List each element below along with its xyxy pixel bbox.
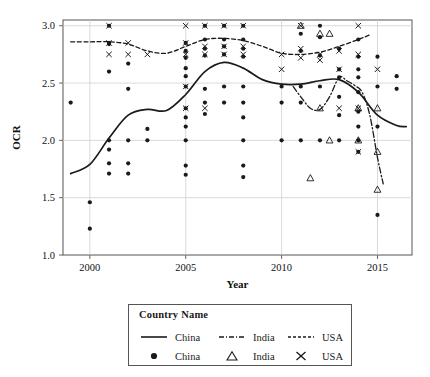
- data-point-china: [222, 100, 226, 104]
- legend-entry-line-india[interactable]: India: [215, 327, 287, 347]
- data-point-china: [375, 84, 379, 88]
- data-point-china: [241, 138, 245, 142]
- data-point-china: [126, 161, 130, 165]
- legend-entry-marker-china[interactable]: China: [137, 346, 215, 366]
- legend-area: Country Name China India: [0, 298, 430, 377]
- y-axis-title: OCR: [10, 124, 22, 150]
- data-point-china: [222, 84, 226, 88]
- dash-dot-line-key: [215, 332, 249, 342]
- data-point-china: [356, 125, 360, 129]
- data-point-china: [184, 74, 188, 78]
- data-point-china: [280, 138, 284, 142]
- data-point-china: [203, 100, 207, 104]
- data-point-china: [299, 138, 303, 142]
- data-point-china: [241, 115, 245, 119]
- data-point-china: [107, 69, 111, 73]
- data-point-china: [184, 115, 188, 119]
- data-point-china: [107, 147, 111, 151]
- x-tick-label: 2015: [367, 262, 388, 273]
- data-point-china: [318, 138, 322, 142]
- legend-marker-row: China India USA: [129, 346, 353, 366]
- x-tick-label: 2010: [271, 262, 292, 273]
- data-point-china: [395, 74, 399, 78]
- data-point-china: [69, 100, 73, 104]
- chart-page: 1.01.52.02.53.02000200520102015YearOCR C…: [0, 0, 430, 377]
- cross-x-key: [284, 350, 318, 362]
- legend-title: Country Name: [139, 309, 208, 320]
- data-point-china: [241, 100, 245, 104]
- data-point-china: [184, 163, 188, 167]
- data-point-china: [184, 125, 188, 129]
- data-point-china: [88, 200, 92, 204]
- solid-line-key: [137, 332, 171, 342]
- data-point-china: [395, 87, 399, 91]
- data-point-china: [126, 172, 130, 176]
- data-point-china: [375, 125, 379, 129]
- legend-label-marker-china: China: [171, 351, 200, 362]
- x-axis-title: Year: [227, 278, 249, 290]
- x-tick-label: 2005: [175, 262, 196, 273]
- data-point-china: [356, 75, 360, 79]
- x-tick-label: 2000: [79, 262, 100, 273]
- filled-circle-key: [137, 350, 171, 362]
- y-tick-label: 2.0: [42, 135, 55, 146]
- y-tick-label: 1.5: [42, 192, 55, 203]
- legend-box: Country Name China India: [128, 304, 352, 366]
- data-point-china: [375, 213, 379, 217]
- plot-canvas: 1.01.52.02.53.02000200520102015YearOCR: [0, 0, 430, 300]
- data-point-china: [337, 95, 341, 99]
- legend-label-line-usa: USA: [318, 332, 343, 343]
- data-point-china: [337, 113, 341, 117]
- dashed-line-key: [284, 332, 318, 342]
- data-point-china: [184, 138, 188, 142]
- data-point-china: [107, 172, 111, 176]
- scatter-plot-figure: 1.01.52.02.53.02000200520102015YearOCR: [0, 0, 430, 300]
- data-point-china: [88, 227, 92, 231]
- data-point-china: [356, 67, 360, 71]
- data-point-china: [280, 100, 284, 104]
- legend-label-marker-india: India: [249, 351, 275, 362]
- data-point-china: [299, 32, 303, 36]
- legend-entry-marker-usa[interactable]: USA: [284, 346, 354, 366]
- data-point-china: [318, 24, 322, 28]
- data-point-china: [299, 100, 303, 104]
- data-point-china: [337, 138, 341, 142]
- data-point-china: [203, 112, 207, 116]
- data-point-china: [145, 127, 149, 131]
- data-point-china: [375, 55, 379, 59]
- legend-label-marker-usa: USA: [318, 351, 343, 362]
- data-point-china: [126, 87, 130, 91]
- data-point-china: [126, 138, 130, 142]
- data-point-china: [184, 173, 188, 177]
- y-tick-label: 1.0: [42, 250, 55, 261]
- y-tick-label: 3.0: [42, 20, 55, 31]
- open-triangle-key: [215, 350, 249, 362]
- y-tick-label: 2.5: [42, 78, 55, 89]
- data-point-china: [145, 138, 149, 142]
- data-point-china: [184, 66, 188, 70]
- legend-label-line-india: India: [249, 332, 275, 343]
- data-point-china: [318, 35, 322, 39]
- data-point-china: [203, 87, 207, 91]
- legend-entry-line-usa[interactable]: USA: [284, 327, 354, 347]
- legend-label-line-china: China: [171, 332, 200, 343]
- data-point-china: [241, 163, 245, 167]
- data-point-china: [107, 161, 111, 165]
- data-point-china: [241, 175, 245, 179]
- data-point-china: [241, 84, 245, 88]
- data-point-china: [318, 84, 322, 88]
- legend-entry-line-china[interactable]: China: [137, 327, 215, 347]
- legend-line-row: China India USA: [129, 327, 353, 347]
- data-point-china: [126, 61, 130, 65]
- legend-entry-marker-india[interactable]: India: [215, 346, 287, 366]
